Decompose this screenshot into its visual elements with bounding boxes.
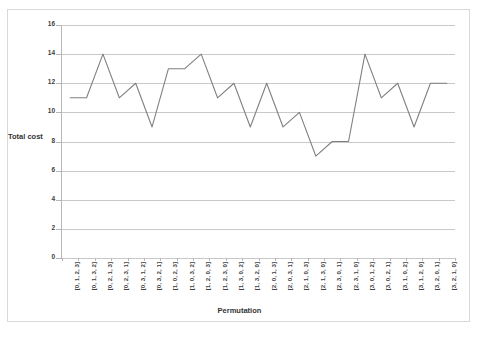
x-tick-label: [3, 2, 1, 0]: [450, 262, 458, 306]
y-tick-label: 8: [19, 138, 55, 145]
x-tick-label: [2, 0, 3, 1]: [286, 262, 294, 306]
y-tick-group: 2: [0, 225, 55, 235]
y-tick-group: 4: [0, 196, 55, 206]
y-tick-mark: [56, 142, 61, 143]
x-tick-label: [0, 1, 3, 2]: [90, 262, 98, 306]
y-tick-group: 8: [0, 138, 55, 148]
x-tick-mark: [390, 258, 391, 261]
y-tick-group: 12: [0, 79, 55, 89]
x-tick-mark: [422, 258, 423, 261]
y-tick-label: 0: [19, 254, 55, 261]
x-tick-label: [3, 0, 1, 2]: [368, 262, 376, 306]
y-tick-label: 6: [19, 167, 55, 174]
x-tick-label: [1, 3, 0, 2]: [237, 262, 245, 306]
y-tick-mark: [56, 229, 61, 230]
x-tick-mark: [209, 258, 210, 261]
chart-figure: Total cost 0246810121416 [0, 1, 2, 3][0,…: [0, 0, 479, 339]
x-tick-mark: [308, 258, 309, 261]
x-tick-mark: [62, 258, 63, 261]
x-tick-label: [1, 2, 3, 0]: [221, 262, 229, 306]
x-tick-label: [2, 3, 0, 1]: [335, 262, 343, 306]
x-tick-label: [2, 1, 0, 3]: [302, 262, 310, 306]
x-tick-mark: [357, 258, 358, 261]
x-axis-tick-labels: [0, 1, 2, 3][0, 1, 3, 2][0, 2, 1, 3][0, …: [62, 262, 455, 306]
x-tick-mark: [324, 258, 325, 261]
x-axis-title: Permutation: [0, 306, 479, 315]
x-tick-label: [1, 0, 2, 3]: [171, 262, 179, 306]
x-tick-mark: [406, 258, 407, 261]
x-tick-label: [1, 3, 2, 0]: [253, 262, 261, 306]
x-tick-label: [0, 3, 1, 2]: [139, 262, 147, 306]
x-tick-mark: [128, 258, 129, 261]
y-tick-mark: [56, 112, 61, 113]
x-tick-label: [0, 2, 1, 3]: [106, 262, 114, 306]
y-tick-group: 16: [0, 21, 55, 31]
x-tick-mark: [373, 258, 374, 261]
y-tick-group: 10: [0, 108, 55, 118]
y-tick-label: 16: [19, 21, 55, 28]
x-tick-mark: [160, 258, 161, 261]
x-tick-mark: [439, 258, 440, 261]
x-tick-mark: [275, 258, 276, 261]
x-tick-label: [3, 2, 0, 1]: [433, 262, 441, 306]
y-tick-label: 12: [19, 79, 55, 86]
x-tick-mark: [291, 258, 292, 261]
x-tick-label: [1, 2, 0, 3]: [204, 262, 212, 306]
y-tick-mark: [56, 25, 61, 26]
y-tick-mark: [56, 200, 61, 201]
x-tick-mark: [242, 258, 243, 261]
y-tick-group: 6: [0, 167, 55, 177]
plot-area: [62, 25, 455, 258]
x-tick-label: [3, 1, 2, 0]: [417, 262, 425, 306]
y-tick-mark: [56, 171, 61, 172]
series-polyline: [70, 54, 447, 156]
x-tick-label: [2, 3, 1, 0]: [352, 262, 360, 306]
line-series: [62, 25, 455, 258]
x-tick-mark: [226, 258, 227, 261]
x-tick-label: [1, 0, 3, 2]: [188, 262, 196, 306]
x-tick-label: [0, 3, 2, 1]: [155, 262, 163, 306]
x-tick-label: [0, 1, 2, 3]: [73, 262, 81, 306]
x-tick-mark: [193, 258, 194, 261]
x-tick-label: [2, 0, 1, 3]: [270, 262, 278, 306]
y-tick-mark: [56, 258, 61, 259]
x-tick-mark: [177, 258, 178, 261]
x-tick-mark: [78, 258, 79, 261]
y-tick-label: 10: [19, 108, 55, 115]
y-tick-label: 14: [19, 50, 55, 57]
x-tick-mark: [259, 258, 260, 261]
x-tick-mark: [144, 258, 145, 261]
x-tick-mark: [95, 258, 96, 261]
y-tick-mark: [56, 54, 61, 55]
x-tick-label: [3, 1, 0, 2]: [401, 262, 409, 306]
y-tick-group: 0: [0, 254, 55, 264]
x-tick-label: [2, 1, 3, 0]: [319, 262, 327, 306]
y-tick-group: 14: [0, 50, 55, 60]
y-tick-mark: [56, 83, 61, 84]
x-tick-mark: [340, 258, 341, 261]
x-tick-mark: [455, 258, 456, 261]
x-tick-label: [3, 0, 2, 1]: [384, 262, 392, 306]
x-tick-label: [0, 2, 3, 1]: [122, 262, 130, 306]
y-tick-label: 2: [19, 225, 55, 232]
x-tick-mark: [111, 258, 112, 261]
y-tick-label: 4: [19, 196, 55, 203]
